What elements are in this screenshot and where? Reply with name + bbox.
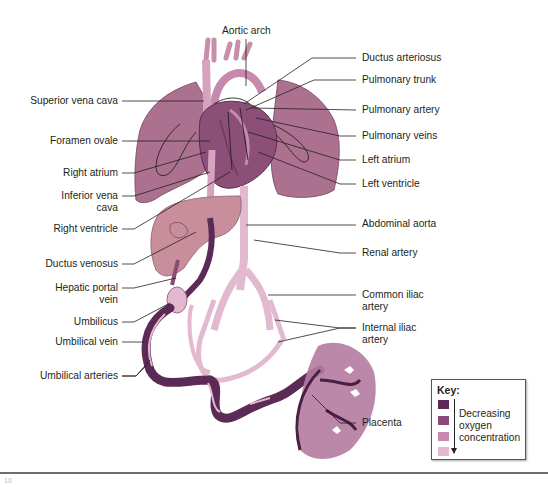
key-swatch-low-oxygen <box>438 432 449 441</box>
label-hpv-line1: Hepatic portal <box>55 282 118 293</box>
label-internal-iliac-artery: Internal iliac artery <box>362 322 416 346</box>
label-abdominal-aorta: Abdominal aorta <box>362 218 436 230</box>
label-umbilical-vein: Umbilical vein <box>55 336 118 348</box>
label-ivc-line1: Inferior vena <box>61 190 118 201</box>
page-number: 10 <box>4 477 12 484</box>
label-internal-iliac-line2: artery <box>362 334 388 345</box>
label-hepatic-portal-vein: Hepatic portal vein <box>55 282 118 306</box>
label-pulmonary-artery: Pulmonary artery <box>362 104 440 116</box>
label-right-ventricle: Right ventricle <box>53 223 118 235</box>
label-common-iliac-artery: Common iliac artery <box>362 289 424 313</box>
label-inferior-vena-cava: Inferior vena cava <box>61 190 118 214</box>
label-ductus-arteriosus: Ductus arteriosus <box>362 52 441 64</box>
umbilical-cord <box>146 308 320 418</box>
label-pulmonary-veins: Pulmonary veins <box>362 130 437 142</box>
label-superior-vena-cava: Superior vena cava <box>30 95 118 107</box>
label-left-atrium: Left atrium <box>362 154 410 166</box>
key-swatch-highest-oxygen <box>438 400 449 409</box>
label-ivc-line2: cava <box>96 202 118 213</box>
key-description: Decreasing oxygen concentration <box>459 408 520 444</box>
key-swatch-high-oxygen <box>438 416 449 425</box>
placenta <box>299 343 376 459</box>
key-text-line2: oxygen <box>459 420 492 431</box>
label-common-iliac-line2: artery <box>362 301 388 312</box>
key-text-line1: Decreasing <box>459 408 511 419</box>
label-ductus-venosus: Ductus venosus <box>46 258 118 270</box>
label-umbilical-arteries: Umbilical arteries <box>40 370 118 382</box>
label-internal-iliac-line1: Internal iliac <box>362 322 416 333</box>
label-aortic-arch: Aortic arch <box>222 25 271 37</box>
key-text-line3: concentration <box>459 432 520 443</box>
label-pulmonary-trunk: Pulmonary trunk <box>362 74 436 86</box>
label-placenta: Placenta <box>362 417 402 429</box>
key-swatch-lowest-oxygen <box>438 447 449 456</box>
label-common-iliac-line1: Common iliac <box>362 289 424 300</box>
label-renal-artery: Renal artery <box>362 247 418 259</box>
label-umbilicus: Umbilicus <box>74 316 118 328</box>
label-right-atrium: Right atrium <box>63 167 118 179</box>
label-left-ventricle: Left ventricle <box>362 178 420 190</box>
label-hpv-line2: vein <box>99 294 118 305</box>
label-foramen-ovale: Foramen ovale <box>50 135 118 147</box>
color-key: Key: Decreasing oxygen concentration <box>431 379 526 460</box>
key-title: Key: <box>437 384 460 396</box>
liver <box>151 196 241 276</box>
page-divider <box>0 472 548 474</box>
down-arrow-icon <box>454 399 455 453</box>
